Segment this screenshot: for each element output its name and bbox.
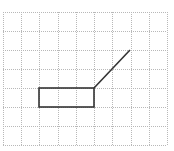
dotted-grid — [3, 12, 168, 146]
rectangle-shape — [39, 88, 94, 107]
grid-diagram — [0, 0, 174, 151]
